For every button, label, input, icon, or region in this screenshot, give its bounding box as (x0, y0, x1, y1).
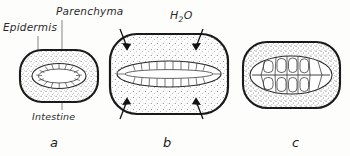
label-water-element: H (170, 9, 179, 22)
label-water-oxygen: O (184, 9, 193, 22)
label-epidermis: Epidermis (3, 22, 57, 33)
label-intestine: Intestine (32, 112, 75, 122)
caption-panel-b: b (163, 135, 171, 150)
figure-canvas: Parenchyma Epidermis Intestine H2O a b c (0, 0, 350, 156)
panel-c (243, 42, 340, 108)
panel-b-intestine-lumen (125, 70, 213, 79)
label-parenchyma: Parenchyma (56, 6, 124, 17)
label-water: H2O (170, 10, 193, 24)
panel-b (110, 29, 228, 119)
caption-panel-c: c (292, 135, 299, 150)
panel-a (20, 50, 98, 102)
caption-panel-a: a (50, 135, 58, 150)
panel-a-intestine-lumen (39, 69, 80, 83)
